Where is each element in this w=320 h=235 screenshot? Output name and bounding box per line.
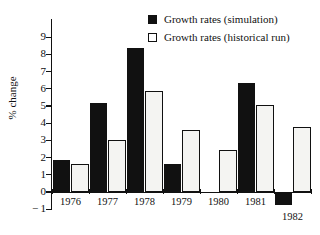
legend-label-historical: Growth rates (historical run): [164, 32, 290, 43]
x-tick-mark: [200, 189, 201, 194]
bar-1979-historical: [182, 130, 199, 192]
y-tick-label: 5: [6, 100, 46, 111]
y-tick-mark: [46, 88, 51, 89]
bar-1979-simulation: [164, 164, 181, 192]
y-tick-label: 6: [6, 83, 46, 94]
y-tick-mark: [46, 71, 51, 72]
bar-1980-historical: [219, 150, 236, 192]
filled-square-icon: [148, 15, 157, 24]
x-tick-label-1982: 1982: [270, 211, 316, 222]
y-tick-mark: [46, 209, 51, 210]
bar-1981-simulation: [238, 83, 255, 192]
y-tick-mark: [46, 174, 51, 175]
bar-1977-historical: [108, 140, 125, 192]
y-tick-label: 1: [6, 169, 46, 180]
y-tick-label: − 1: [6, 203, 46, 214]
y-tick-label: 9: [6, 31, 46, 42]
y-tick-mark: [46, 54, 51, 55]
y-tick-label: 0: [6, 186, 46, 197]
y-tick-mark: [46, 37, 51, 38]
y-tick-label: 4: [6, 117, 46, 128]
y-tick-mark: [46, 105, 51, 106]
bar-1981-historical: [256, 105, 273, 192]
legend-item-simulation: Growth rates (simulation): [148, 10, 290, 28]
y-tick-label: 3: [6, 134, 46, 145]
x-tick-label-1981: 1981: [233, 196, 279, 207]
bar-1982-historical: [293, 127, 310, 192]
y-tick-mark: [46, 191, 51, 192]
bar-1978-simulation: [127, 48, 144, 192]
legend-label-simulation: Growth rates (simulation): [164, 14, 278, 25]
y-tick-label: 7: [6, 66, 46, 77]
y-tick-mark: [46, 123, 51, 124]
y-tick-label: 2: [6, 152, 46, 163]
x-tick-mark: [311, 189, 312, 194]
legend-item-historical: Growth rates (historical run): [148, 28, 290, 46]
y-tick-mark: [46, 157, 51, 158]
y-tick-label: 8: [6, 48, 46, 59]
bar-1976-historical: [71, 164, 88, 192]
bar-chart: % change 9876543210− 1 19761977197819791…: [0, 0, 320, 235]
bar-1976-simulation: [53, 160, 70, 192]
open-square-icon: [148, 33, 157, 42]
chart-legend: Growth rates (simulation) Growth rates (…: [148, 10, 290, 46]
bar-1977-simulation: [90, 103, 107, 192]
y-tick-mark: [46, 140, 51, 141]
bar-1978-historical: [145, 91, 162, 192]
